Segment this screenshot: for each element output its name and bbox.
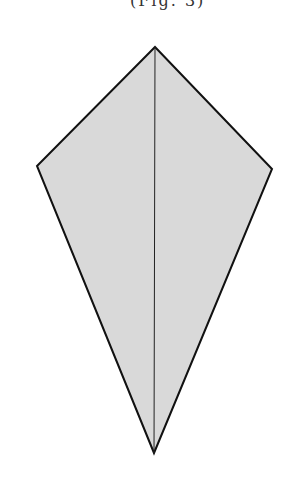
- kite-figure: [0, 0, 291, 490]
